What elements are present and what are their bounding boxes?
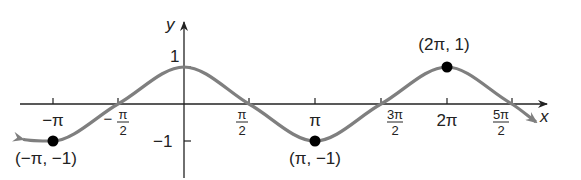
svg-text:2: 2 [497,123,504,138]
x-tick-neg-half-pi: − π 2 [104,107,129,138]
svg-text:−: − [104,110,113,127]
svg-text:2: 2 [119,123,126,138]
x-tick-three-half-pi: 3π 2 [387,107,403,138]
x-axis-label: x [539,107,549,126]
x-tick-five-half-pi: 5π 2 [493,107,509,138]
point-label-two-pi: (2π, 1) [418,35,469,54]
x-tick-pi: π [309,111,321,130]
svg-text:5π: 5π [493,107,509,122]
point-label-neg-pi: (−π, −1) [15,149,77,168]
svg-text:2: 2 [391,123,398,138]
point-pi [310,136,321,147]
y-axis-label: y [165,15,176,34]
svg-text:2: 2 [238,123,245,138]
x-tick-half-pi: π 2 [236,107,248,138]
point-neg-pi [48,136,59,147]
y-tick-neg-1: −1 [153,132,172,151]
y-tick-1: 1 [170,47,179,66]
cosine-graph: y x 1 −1 −π − π 2 π 2 π 3π 2 2π 5π 2 (−π… [0,0,581,180]
svg-text:π: π [119,107,128,122]
x-tick-two-pi: 2π [436,111,457,130]
point-label-pi: (π, −1) [289,149,341,168]
svg-text:3π: 3π [387,107,403,122]
svg-text:π: π [238,107,247,122]
point-two-pi [442,62,453,73]
x-tick-neg-pi: −π [42,111,64,130]
